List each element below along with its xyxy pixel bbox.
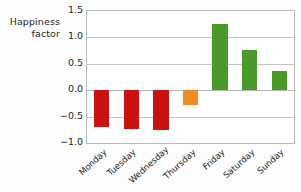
y-axis-tick-label: 0.0 [49,83,83,94]
y-axis-tick-label: −1.0 [49,136,83,147]
y-axis-tick-label: 0.5 [49,57,83,68]
y-axis-tick-label: 1.0 [49,30,83,41]
gridline [87,64,294,65]
bar-sunday [272,71,287,90]
y-axis-tick-label: −0.5 [49,110,83,121]
y-axis-title-line-1: Happiness [10,16,60,27]
y-axis-tick-label: 1.5 [49,4,83,15]
gridline [87,37,294,38]
bar-friday [212,24,227,91]
bar-thursday [183,90,198,105]
gridline [87,117,294,118]
plot-area [86,10,295,144]
bar-saturday [242,50,257,90]
bar-wednesday [153,90,168,130]
bar-tuesday [124,90,139,129]
bar-monday [94,90,109,127]
happiness-factor-bar-chart: Happiness factor 1.51.00.50.0−0.5−1.0 Mo… [0,0,301,192]
